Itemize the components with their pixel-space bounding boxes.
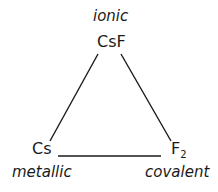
formula-base: F xyxy=(171,139,180,158)
bottom-left-formula-label: Cs xyxy=(32,141,52,157)
edge-ionic-metallic xyxy=(50,54,98,141)
top-bond-type-label: ionic xyxy=(93,9,128,24)
bottom-left-bond-type-label: metallic xyxy=(12,165,72,180)
bottom-right-bond-type-label: covalent xyxy=(145,165,209,180)
formula-subscript: 2 xyxy=(180,149,186,160)
edge-ionic-covalent xyxy=(121,54,171,141)
bottom-right-formula-label: F2 xyxy=(171,141,187,160)
top-formula-label: CsF xyxy=(97,34,126,50)
